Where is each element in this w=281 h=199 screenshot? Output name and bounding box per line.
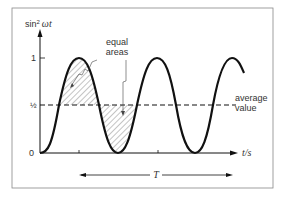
- diagram-canvas: sin2ωt 1 ½ 0 equal areas average value t…: [0, 0, 281, 199]
- x-axis-arrow-icon: [230, 151, 238, 156]
- period-arrow-left-icon: [79, 173, 86, 177]
- average-value-label-1: average: [235, 93, 268, 103]
- y-axis-arrow-icon: [38, 29, 43, 37]
- average-value-label-2: value: [235, 103, 257, 113]
- y-axis-label: sin2ωt: [25, 18, 52, 29]
- period-arrow-right-icon: [226, 173, 233, 177]
- x-axis-label: t/s: [242, 147, 252, 158]
- equal-areas-label-2: areas: [106, 47, 129, 57]
- tick-label-zero: 0: [29, 148, 34, 158]
- figure-frame: [12, 8, 273, 188]
- tick-label-half: ½: [30, 101, 37, 110]
- tick-label-one: 1: [31, 53, 36, 63]
- period-label: T: [153, 169, 160, 180]
- equal-areas-label-1: equal: [106, 37, 128, 47]
